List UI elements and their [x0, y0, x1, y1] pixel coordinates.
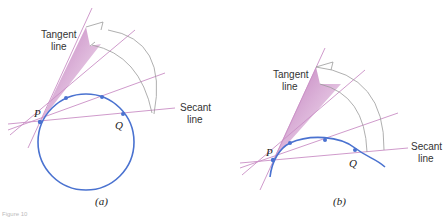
point-q [353, 148, 357, 152]
tangent-label-b: Tangent [273, 69, 309, 80]
point-1 [288, 141, 292, 145]
secant-line-1 [242, 70, 365, 175]
point-2 [100, 95, 104, 99]
point-p-label-a: P [33, 107, 41, 119]
lines-through-p [240, 48, 408, 190]
tangent-label-a-line2: line [51, 41, 67, 52]
circle-curve [38, 94, 134, 190]
secant-label-b-line2: line [418, 153, 434, 164]
point-p-label-b: P [265, 146, 273, 158]
caption-b: (b) [333, 195, 346, 208]
point-q-label-b: Q [349, 157, 357, 169]
panel-b: Tangent line Secant line P Q (b) [240, 48, 442, 208]
point-2 [323, 138, 327, 142]
point-p [271, 158, 275, 162]
tangent-label-a: Tangent [41, 29, 77, 40]
panel-a: Tangent line Secant line P Q (a) [8, 8, 211, 208]
secant-label-b: Secant [411, 141, 442, 152]
secant-label-a: Secant [180, 102, 211, 113]
caption-a: (a) [95, 195, 108, 208]
figure-caption-fragment: Figure 10 [2, 211, 28, 217]
rotation-arrow [86, 22, 157, 114]
tangent-secant-diagram: Tangent line Secant line P Q (a) Tangent [0, 0, 447, 219]
point-q-label-a: Q [115, 119, 123, 131]
secant-label-a-line2: line [187, 114, 203, 125]
point-p [38, 120, 42, 124]
tangent-label-b-line2: line [282, 81, 298, 92]
point-1 [64, 96, 68, 100]
lines-through-p [8, 8, 175, 148]
point-q [121, 112, 125, 116]
